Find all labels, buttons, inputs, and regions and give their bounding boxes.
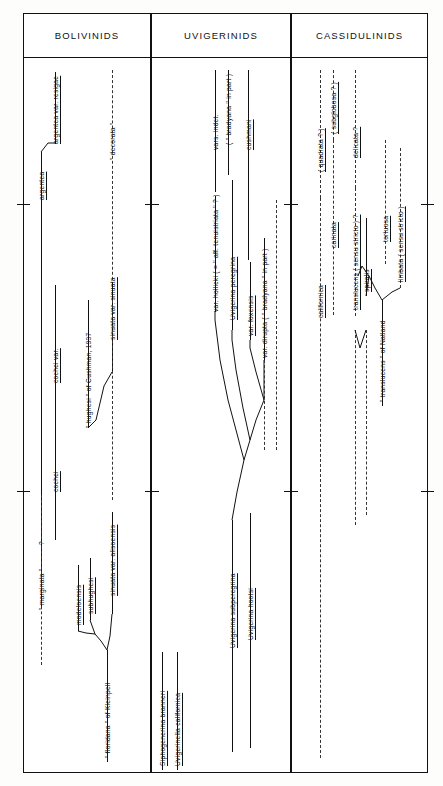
range-line-mid-lower-dash-a — [264, 360, 265, 450]
range-line-left-lower-dash — [112, 300, 113, 500]
range-line-mid-lower-dash-b — [276, 200, 277, 450]
range-chart-figure: BOLIVINIDS UVIGERINIDS CASSIDULINIDS arg… — [0, 0, 443, 786]
connector-right-lower-converge — [0, 0, 443, 786]
